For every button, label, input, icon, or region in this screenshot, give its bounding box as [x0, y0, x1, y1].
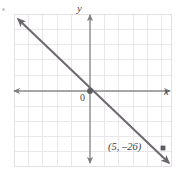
plotted-point-marker	[161, 146, 166, 151]
y-axis-label: y	[77, 3, 82, 14]
coordinate-plane-figure: y x 0 (5, –26)	[0, 0, 177, 177]
plotted-point-label: (5, –26)	[108, 142, 141, 153]
origin-point-marker	[87, 88, 93, 94]
graph-canvas	[0, 0, 177, 177]
origin-label: 0	[80, 93, 85, 103]
x-axis-label: x	[164, 86, 169, 97]
